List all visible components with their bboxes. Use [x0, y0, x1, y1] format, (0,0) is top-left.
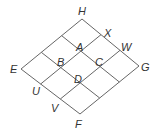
point-label-h: H — [78, 5, 86, 17]
grid-line-0-b — [21, 19, 82, 69]
point-label-x: X — [103, 27, 112, 39]
point-label-w: W — [121, 41, 133, 53]
point-label-b: B — [57, 56, 64, 68]
point-label-f: F — [75, 118, 83, 130]
point-label-a: A — [75, 41, 83, 53]
rhombus-grid-diagram: HXWGABCDEUVF — [0, 0, 154, 134]
point-label-d: D — [74, 73, 82, 85]
point-label-u: U — [32, 85, 40, 97]
point-label-e: E — [10, 63, 18, 75]
point-label-v: V — [51, 102, 60, 114]
point-label-c: C — [95, 56, 103, 68]
point-label-g: G — [141, 61, 150, 73]
